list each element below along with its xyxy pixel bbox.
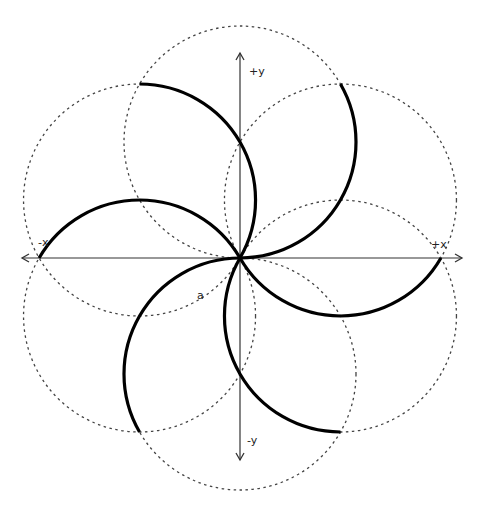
pinwheel-diagram: +x -x +y -y a xyxy=(0,0,483,508)
annotation-a-label: a xyxy=(197,289,204,302)
heavy-arc xyxy=(240,258,441,316)
y-positive-label: +y xyxy=(249,65,265,78)
heavy-arc xyxy=(39,200,240,258)
x-positive-label: +x xyxy=(431,238,447,251)
heavy-arc xyxy=(124,258,240,432)
x-negative-label: -x xyxy=(38,236,49,249)
y-negative-label: -y xyxy=(247,434,258,447)
heavy-arc xyxy=(240,84,356,258)
heavy-arc xyxy=(224,258,340,432)
heavy-arc xyxy=(140,84,256,258)
